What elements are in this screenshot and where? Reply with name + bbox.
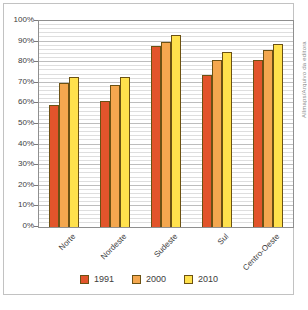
bar-norte-2010 — [69, 77, 79, 227]
y-tick-mark — [34, 164, 38, 165]
bar-norte-1991 — [49, 105, 59, 227]
legend-label: 2000 — [146, 274, 166, 284]
bar-sudeste-1991 — [151, 46, 161, 227]
y-tick-label: 10% — [6, 200, 34, 209]
y-tick-label: 20% — [6, 180, 34, 189]
legend-item-2010: 2010 — [184, 274, 218, 284]
bar-centro-oeste-1991 — [253, 60, 263, 227]
legend-swatch-2010 — [184, 275, 193, 284]
y-tick-mark — [34, 82, 38, 83]
y-tick-mark — [34, 61, 38, 62]
y-tick-mark — [34, 41, 38, 42]
y-tick-mark — [34, 205, 38, 206]
legend-label: 1991 — [94, 274, 114, 284]
legend-swatch-1991 — [80, 275, 89, 284]
bar-centro-oeste-2000 — [263, 50, 273, 227]
bar-group-sul — [191, 21, 242, 227]
bar-sul-2010 — [222, 52, 232, 227]
chart-figure: Allmaps/Arquivo da editora 0%10%20%30%40… — [0, 0, 308, 310]
y-tick-mark — [34, 226, 38, 227]
y-tick-label: 90% — [6, 36, 34, 45]
y-tick-mark — [34, 123, 38, 124]
bars-layer — [39, 21, 293, 227]
plot-area — [38, 20, 294, 228]
bar-nordeste-2000 — [110, 85, 120, 227]
bar-sul-2000 — [212, 60, 222, 227]
bar-sudeste-2000 — [161, 42, 171, 227]
y-tick-label: 80% — [6, 56, 34, 65]
legend-item-1991: 1991 — [80, 274, 114, 284]
bar-norte-2000 — [59, 83, 69, 227]
bar-nordeste-2010 — [120, 77, 130, 227]
credit-text: Allmaps/Arquivo da editora — [301, 8, 307, 118]
bar-sul-1991 — [202, 75, 212, 227]
bar-group-nordeste — [90, 21, 141, 227]
y-tick-label: 60% — [6, 97, 34, 106]
bar-group-centro-oeste — [242, 21, 293, 227]
y-tick-mark — [34, 102, 38, 103]
y-tick-mark — [34, 20, 38, 21]
bar-group-norte — [39, 21, 90, 227]
legend-item-2000: 2000 — [132, 274, 166, 284]
bar-nordeste-1991 — [100, 101, 110, 227]
y-tick-label: 0% — [6, 221, 34, 230]
bar-group-sudeste — [141, 21, 192, 227]
legend: 199120002010 — [3, 274, 295, 284]
y-tick-label: 40% — [6, 139, 34, 148]
y-tick-label: 70% — [6, 77, 34, 86]
y-tick-label: 50% — [6, 118, 34, 127]
y-tick-mark — [34, 144, 38, 145]
legend-swatch-2000 — [132, 275, 141, 284]
y-axis: 0%10%20%30%40%50%60%70%80%90%100% — [6, 20, 36, 226]
y-tick-label: 100% — [6, 15, 34, 24]
y-tick-mark — [34, 185, 38, 186]
bar-centro-oeste-2010 — [273, 44, 283, 227]
legend-label: 2010 — [198, 274, 218, 284]
bar-sudeste-2010 — [171, 35, 181, 227]
y-tick-label: 30% — [6, 159, 34, 168]
x-axis-labels: NorteNordesteSudesteSulCentro-Oeste — [38, 228, 292, 280]
